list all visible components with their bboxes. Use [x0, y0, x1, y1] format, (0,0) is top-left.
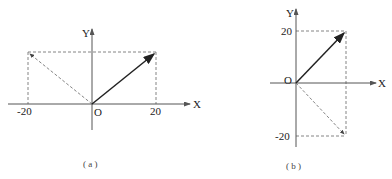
- caption-b: ( b ): [286, 161, 301, 171]
- solid-vector: [296, 33, 344, 83]
- caption-a: ( a ): [83, 159, 98, 169]
- diagram-canvas: Y X O -20 20 ( a ) Y X O 20 -20 ( b ): [0, 0, 392, 179]
- origin-label: O: [94, 106, 102, 118]
- solid-vector: [92, 54, 154, 104]
- origin-label: O: [284, 74, 292, 86]
- tick-label-x-neg: -20: [17, 105, 32, 117]
- x-axis-label: X: [193, 98, 201, 110]
- dashed-vector: [30, 54, 92, 104]
- x-axis-label: X: [378, 77, 386, 89]
- y-axis-label: Y: [286, 7, 294, 19]
- tick-label-y-neg: -20: [275, 130, 290, 142]
- tick-label-x-pos: 20: [150, 105, 162, 117]
- dashed-vector: [296, 83, 344, 134]
- y-axis-label: Y: [82, 27, 90, 39]
- panel-a: Y X O -20 20 ( a ): [8, 27, 201, 169]
- tick-label-y-pos: 20: [281, 25, 293, 37]
- panel-b: Y X O 20 -20 ( b ): [270, 7, 386, 171]
